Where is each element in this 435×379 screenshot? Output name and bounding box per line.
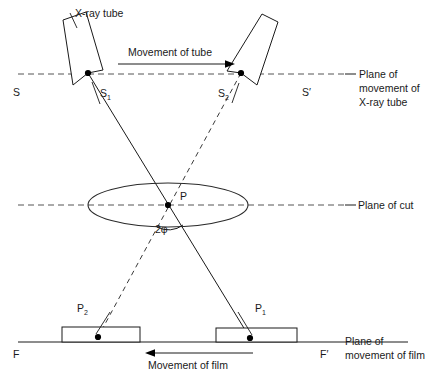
label-angle-2phi: 2φ <box>155 223 168 235</box>
plane-tube-line-1: Plane of <box>359 68 398 80</box>
movement-of-film-arrow <box>145 349 253 356</box>
focal-point-p <box>165 202 171 208</box>
label-p1-base: P <box>255 302 262 314</box>
label-plane-of-cut: Plane of cut <box>358 199 414 211</box>
label-p2-subscript: 2 <box>84 309 88 316</box>
movement-of-tube-arrow <box>118 60 235 67</box>
label-s2-subscript: 2 <box>225 94 229 101</box>
plane-film-line-1: Plane of <box>345 335 384 347</box>
label-s2: S 2 <box>218 87 229 101</box>
film-sheet-right <box>216 328 297 342</box>
source-point-s2 <box>238 70 244 76</box>
plane-tube-line-3: X-ray tube <box>359 96 408 108</box>
label-f: F <box>13 348 19 360</box>
label-s-prime: S′ <box>302 86 311 98</box>
label-s-left: S <box>13 86 20 98</box>
label-xray-tube: X-ray tube <box>75 7 124 19</box>
label-p2: P 2 <box>77 302 88 316</box>
label-movement-of-tube: Movement of tube <box>128 46 212 58</box>
label-s1-subscript: 1 <box>107 94 111 101</box>
tomography-diagram: X-ray tube Movement of tube S S′ S 1 S 2… <box>0 0 435 379</box>
label-s2-base: S <box>218 87 225 99</box>
image-point-p1 <box>247 335 253 341</box>
leader-s2-label <box>232 83 239 103</box>
plane-tube-line-2: movement of <box>359 82 420 94</box>
image-point-p2 <box>95 334 101 340</box>
label-plane-of-film-movement: Plane of movement of film <box>345 335 425 361</box>
label-p: P <box>180 190 187 202</box>
label-p1-subscript: 1 <box>262 309 266 316</box>
label-s1-base: S <box>100 87 107 99</box>
label-plane-of-tube-movement: Plane of movement of X-ray tube <box>359 68 420 108</box>
label-p2-base: P <box>77 302 84 314</box>
label-f-prime: F′ <box>320 348 328 360</box>
label-movement-of-film: Movement of film <box>148 359 228 371</box>
film-sheet-left <box>62 327 140 342</box>
plane-film-line-2: movement of film <box>345 349 425 361</box>
source-point-s1 <box>85 70 91 76</box>
label-s1: S 1 <box>100 87 111 101</box>
label-p1: P 1 <box>255 302 266 316</box>
